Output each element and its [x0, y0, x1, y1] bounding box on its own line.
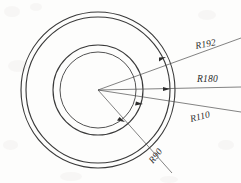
- dimension-label-r90: R90: [146, 147, 164, 167]
- arrow-head-r192: [159, 57, 166, 62]
- engineering-drawing-canvas: R192 R180 R110 R90: [0, 0, 241, 183]
- arrow-head-r180: [163, 87, 170, 91]
- dimension-label-r110: R110: [188, 109, 211, 124]
- dimension-label-group: R192 R180 R110 R90: [146, 37, 218, 166]
- dimension-label-r180: R180: [196, 74, 218, 84]
- dimension-label-r192: R192: [193, 37, 216, 51]
- drawing-svg: R192 R180 R110 R90: [0, 0, 241, 183]
- leader-line-r90: [98, 90, 172, 173]
